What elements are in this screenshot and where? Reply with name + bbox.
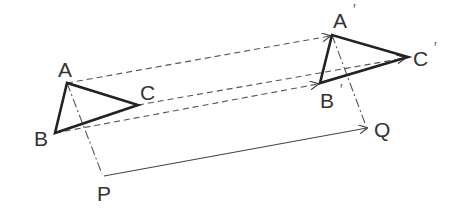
triangle-aprime-bprime-cprime: [320, 35, 408, 83]
translation-arrow-c: [138, 58, 405, 105]
prime-mark-b: ′: [340, 81, 343, 97]
label-b-prime: B: [320, 89, 334, 112]
label-p: P: [97, 182, 111, 205]
vector-pq: [104, 128, 367, 176]
label-q: Q: [374, 118, 390, 141]
prime-mark-a: ′: [353, 1, 356, 17]
label-b: B: [34, 127, 48, 150]
construction-line-aprime-q: [332, 35, 366, 126]
translation-diagram: A B C A ′ B ′ C ′ P Q: [0, 0, 463, 220]
label-c-prime: C: [413, 47, 428, 70]
label-c: C: [140, 81, 155, 104]
label-a: A: [58, 58, 72, 81]
translation-arrow-a: [67, 36, 330, 83]
label-a-prime: A: [333, 9, 347, 32]
prime-mark-c: ′: [434, 39, 437, 55]
